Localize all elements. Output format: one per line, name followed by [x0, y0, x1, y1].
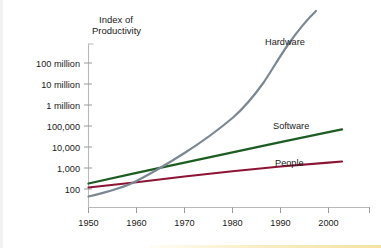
y-tick-label: 10 million — [41, 80, 80, 90]
x-tick-label: 1990 — [270, 218, 290, 228]
y-axis-title-line2: Productivity — [92, 25, 141, 36]
series-line-software — [89, 129, 343, 183]
series-label-people: People — [275, 158, 304, 168]
x-tick-label: 1960 — [126, 218, 146, 228]
x-tick-label: 1950 — [78, 218, 98, 228]
x-tick-label: 1980 — [222, 218, 242, 228]
y-tick-label: 100 million — [36, 59, 80, 69]
series-label-software: Software — [273, 121, 309, 131]
y-tick-label: 1 million — [46, 101, 80, 111]
x-axis-ticks — [89, 208, 370, 214]
y-tick-label: 100 — [65, 185, 80, 195]
series-label-hardware: Hardware — [265, 37, 305, 47]
y-axis-title-line1: Index of — [99, 14, 133, 25]
x-tick-label: 1970 — [174, 218, 194, 228]
y-axis-tick-labels: 100 million 10 million 1 million 100,000… — [36, 59, 80, 195]
chart-svg: Index of Productivity 100 million 10 mil… — [0, 0, 381, 248]
x-tick-label: 2000 — [318, 218, 338, 228]
productivity-index-figure: Index of Productivity 100 million 10 mil… — [0, 0, 381, 248]
x-axis-tick-labels: 1950 1960 1970 1980 1990 2000 — [78, 218, 338, 228]
y-tick-label: 100,000 — [47, 122, 80, 132]
y-tick-label: 1,000 — [57, 164, 80, 174]
y-tick-label: 10,000 — [52, 143, 80, 153]
